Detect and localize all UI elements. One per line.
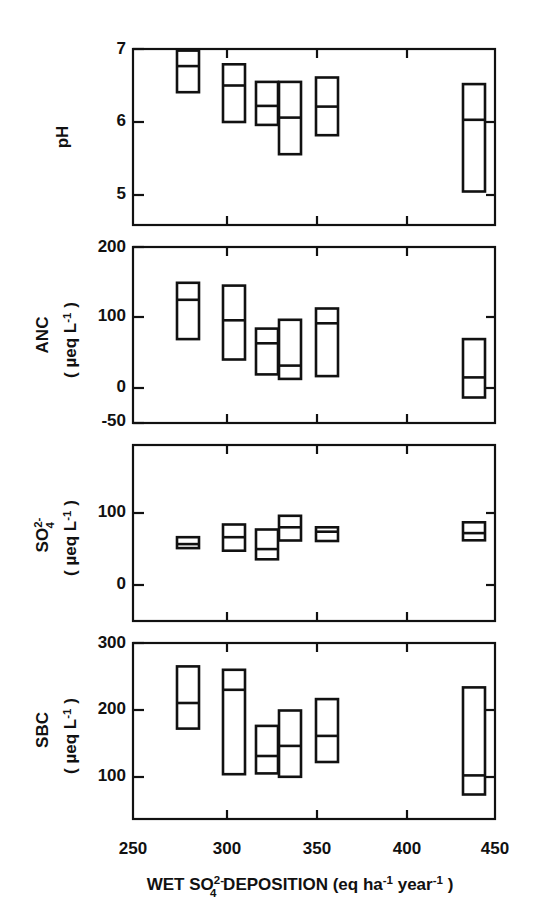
box-395 [316,699,338,762]
multi-panel-boxplot-svg: 7 6 5 pH [0,0,541,921]
panel-so4-ytick-0: 100 [98,502,126,521]
panel-so4: 100 0 SO2-4 ( µeq L-1 ) [32,445,495,621]
box-362 [279,516,301,541]
box-437 [463,339,485,397]
x-axis-tick-labels: 250 300 350 400 450 [119,839,509,858]
box-312 [223,64,245,122]
panel-ph-ytick-2: 5 [117,184,126,203]
panel-anc-axis-title: ANC [33,317,52,354]
panel-sbc-axis-title: SBC [33,712,52,748]
box-437 [463,84,485,191]
box-437 [463,522,485,540]
panel-sbc-ytick-2: 100 [98,766,126,785]
box-271 [177,283,199,339]
panel-anc-boxes [177,283,485,398]
panel-ph-ytick-1: 6 [117,111,126,130]
panel-anc-ytick-2: 0 [117,377,126,396]
box-395 [316,78,338,136]
panel-ph-y-ticks [133,49,144,195]
xtick-450: 450 [481,839,509,858]
panel-ph: 7 6 5 pH [53,39,495,225]
panel-sbc-axis-units: ( µeq L-1 ) [61,698,80,774]
panel-ph-ytick-0: 7 [117,39,126,58]
panel-so4-boxes [177,516,485,560]
xtick-350: 350 [303,839,331,858]
box-341 [256,530,278,560]
panel-anc-ytick-1: 100 [98,306,126,325]
panel-anc-ytick-0: 200 [98,237,126,256]
xtick-250: 250 [119,839,147,858]
panel-so4-axis-title: SO2-4 [32,517,56,552]
box-341 [256,329,278,375]
panel-so4-ytick-1: 0 [117,574,126,593]
xtick-300: 300 [213,839,241,858]
panel-sbc: 300 200 100 SBC ( µeq L-1 ) [33,633,495,819]
box-395 [316,309,338,377]
panel-ph-x-ticks [227,49,495,225]
box-362 [279,82,301,154]
box-plot-figure: 7 6 5 pH [0,0,541,921]
box-271 [177,666,199,728]
panel-sbc-ytick-1: 200 [98,699,126,718]
box-341 [256,726,278,774]
panel-ph-boxes [177,51,485,192]
x-axis-title: WET SO2-4 DEPOSITION (eq ha-1 year-1 ) [147,874,454,899]
box-312 [223,670,245,774]
box-312 [223,286,245,360]
box-362 [279,711,301,777]
panel-ph-axis-title: pH [53,126,72,149]
panel-sbc-ytick-0: 300 [98,633,126,652]
panel-so4-axis-units: ( µeq L-1 ) [61,500,80,576]
panel-anc: 200 100 0 -50 ANC ( µeq L-1 ) [33,237,495,430]
panel-anc-axis-units: ( µeq L-1 ) [61,302,80,378]
box-271 [177,51,199,93]
box-341 [256,82,278,125]
xtick-400: 400 [393,839,421,858]
panel-anc-ytick-3: -50 [101,411,126,430]
box-395 [316,527,338,541]
panel-so4-frame [133,445,495,621]
panel-sbc-boxes [177,666,485,794]
box-437 [463,687,485,794]
box-362 [279,320,301,379]
box-271 [177,537,199,548]
box-312 [223,525,245,551]
